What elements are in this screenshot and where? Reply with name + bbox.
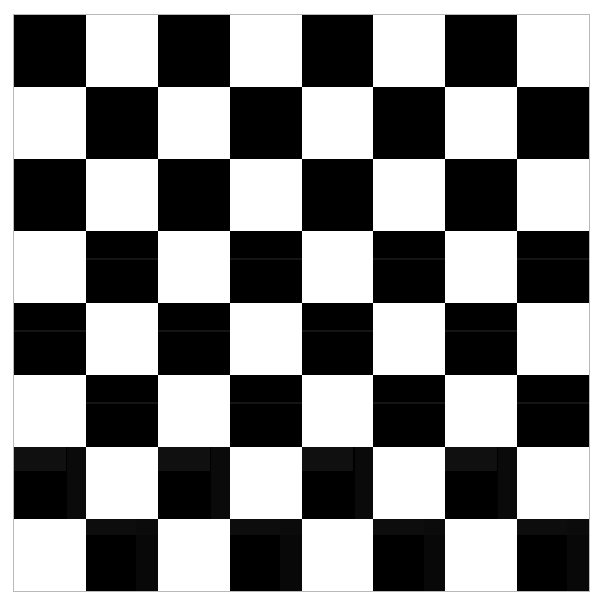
- board-square-g7: [445, 87, 517, 159]
- board-square-f7: [373, 87, 445, 159]
- board-square-a7: [14, 87, 86, 159]
- board-square-g8: [445, 15, 517, 87]
- board-square-h6: [517, 159, 589, 231]
- board-square-c4: [158, 303, 230, 375]
- board-square-d3: [230, 375, 302, 447]
- board-square-f8: [373, 15, 445, 87]
- board-square-a4: [14, 303, 86, 375]
- board-square-f1: [373, 519, 445, 591]
- board-square-h3: [517, 375, 589, 447]
- board-square-f3: [373, 375, 445, 447]
- board-square-c7: [158, 87, 230, 159]
- board-square-b5: [86, 231, 158, 303]
- board-square-g5: [445, 231, 517, 303]
- board-square-e7: [302, 87, 374, 159]
- board-square-d2: [230, 447, 302, 519]
- board-square-b8: [86, 15, 158, 87]
- board-square-e5: [302, 231, 374, 303]
- board-square-c3: [158, 375, 230, 447]
- board-square-d8: [230, 15, 302, 87]
- board-square-e8: [302, 15, 374, 87]
- checkerboard: [13, 14, 590, 592]
- board-square-h8: [517, 15, 589, 87]
- board-square-g2: [445, 447, 517, 519]
- board-square-a1: [14, 519, 86, 591]
- board-square-a3: [14, 375, 86, 447]
- board-square-g4: [445, 303, 517, 375]
- board-square-e2: [302, 447, 374, 519]
- board-square-c6: [158, 159, 230, 231]
- board-square-c5: [158, 231, 230, 303]
- board-square-c1: [158, 519, 230, 591]
- board-square-h4: [517, 303, 589, 375]
- board-square-g6: [445, 159, 517, 231]
- board-square-f6: [373, 159, 445, 231]
- board-square-f5: [373, 231, 445, 303]
- image-canvas: [0, 0, 605, 609]
- board-square-g3: [445, 375, 517, 447]
- board-square-h5: [517, 231, 589, 303]
- board-square-f4: [373, 303, 445, 375]
- board-square-a5: [14, 231, 86, 303]
- board-square-b1: [86, 519, 158, 591]
- board-square-d6: [230, 159, 302, 231]
- board-square-e6: [302, 159, 374, 231]
- board-square-b2: [86, 447, 158, 519]
- board-square-b7: [86, 87, 158, 159]
- board-square-b4: [86, 303, 158, 375]
- board-square-b6: [86, 159, 158, 231]
- board-square-g1: [445, 519, 517, 591]
- board-square-d7: [230, 87, 302, 159]
- board-square-e4: [302, 303, 374, 375]
- board-square-e1: [302, 519, 374, 591]
- board-square-a2: [14, 447, 86, 519]
- board-square-h1: [517, 519, 589, 591]
- board-square-a8: [14, 15, 86, 87]
- board-square-h2: [517, 447, 589, 519]
- board-square-h7: [517, 87, 589, 159]
- board-square-f2: [373, 447, 445, 519]
- board-square-a6: [14, 159, 86, 231]
- board-square-c2: [158, 447, 230, 519]
- board-square-d4: [230, 303, 302, 375]
- board-square-d5: [230, 231, 302, 303]
- board-square-d1: [230, 519, 302, 591]
- board-square-b3: [86, 375, 158, 447]
- board-square-e3: [302, 375, 374, 447]
- board-square-c8: [158, 15, 230, 87]
